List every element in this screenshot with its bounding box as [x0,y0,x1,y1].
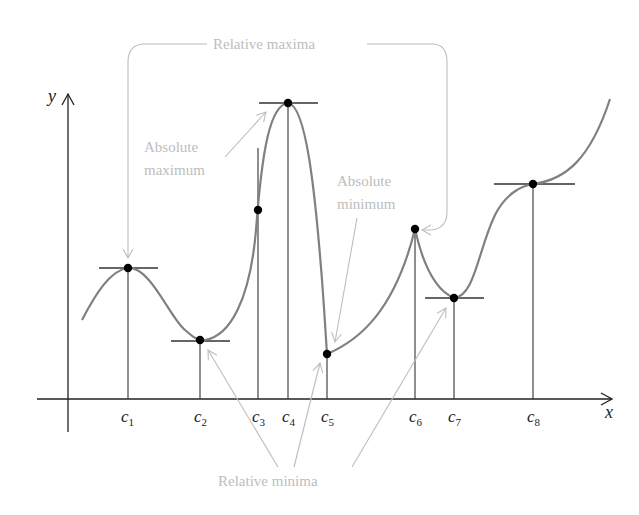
tick-labels: c1 c2 c3 c4 c5 c6 c7 c8 [121,407,541,428]
tick-c2: c2 [194,407,207,428]
absolute-minimum-label-line1: Absolute [337,173,392,189]
point-c1 [124,264,132,272]
point-c4 [284,99,292,107]
x-axis-label: x [604,402,613,422]
point-c6 [411,225,419,233]
absolute-maximum-label-line2: maximum [144,162,205,178]
point-c8 [529,180,537,188]
absolute-minimum-label-line2: minimum [337,196,396,212]
absolute-minimum-arrow [335,218,357,342]
point-c3 [254,206,262,214]
point-c7 [450,294,458,302]
relative-maxima-label: Relative maxima [213,36,315,52]
tick-c3: c3 [252,407,266,428]
extrema-diagram: Relative maxima Absolute maximum Absolut… [0,0,639,515]
tick-c4: c4 [282,407,296,428]
function-curve [82,99,610,354]
absolute-maximum-label-line1: Absolute [144,139,199,155]
point-c5 [323,350,331,358]
relative-minima-label: Relative minima [218,473,318,489]
absolute-maximum-arrow [225,112,266,157]
tick-c6: c6 [409,407,423,428]
tick-c7: c7 [448,407,462,428]
tick-c5: c5 [321,407,335,428]
tick-c1: c1 [121,407,134,428]
critical-points [124,99,537,358]
y-axis-label: y [46,86,56,106]
tick-c8: c8 [527,407,541,428]
point-c2 [196,336,204,344]
